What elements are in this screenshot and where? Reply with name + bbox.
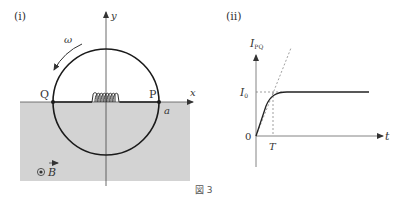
current-axis-label: IPQ	[249, 37, 263, 50]
point-p	[157, 100, 161, 104]
i0-label: I0	[239, 86, 248, 99]
panel-ii: (ii) IPQ t I0 T 0	[226, 10, 390, 167]
panel-i: (i) x y Q P a ω B	[14, 10, 196, 186]
point-q-label: Q	[40, 88, 49, 101]
panel-i-label: (i)	[14, 10, 26, 23]
panel-ii-label: (ii)	[226, 10, 242, 23]
field-b-label: B	[47, 166, 56, 179]
time-axis-label: t	[385, 130, 390, 143]
t-mark-label: T	[269, 141, 277, 152]
radius-label: a	[164, 105, 170, 116]
figure-caption: 図 3	[195, 185, 213, 195]
point-q	[51, 100, 55, 104]
omega-label: ω	[64, 34, 72, 45]
y-axis-label: y	[110, 10, 117, 21]
coil-inductor	[92, 93, 120, 102]
figure-3: (i) x y Q P a ω B (ii)	[0, 0, 404, 198]
origin-label: 0	[245, 131, 251, 142]
point-p-label: P	[149, 88, 157, 101]
x-axis-label: x	[190, 87, 196, 98]
